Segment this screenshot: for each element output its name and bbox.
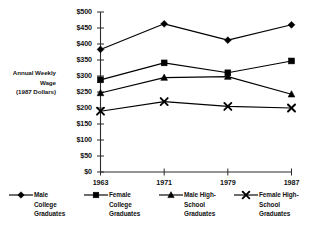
series-square — [98, 58, 295, 83]
marker-square — [93, 192, 99, 198]
marker-diamond — [288, 21, 295, 28]
series-triangle — [97, 73, 295, 97]
legend-marker-triangle — [158, 190, 184, 200]
marker-diamond — [18, 192, 24, 198]
series-line — [101, 77, 292, 95]
legend-marker-diamond — [8, 190, 34, 200]
legend-item[interactable]: Male College Graduates — [8, 190, 83, 219]
legend-item[interactable]: Female College Graduates — [83, 190, 158, 219]
marker-diamond — [224, 37, 231, 44]
series-line — [101, 102, 292, 112]
wage-line-chart: Annual Weekly Wage (1987 Dollars) $0$50$… — [0, 0, 313, 231]
series-line — [101, 24, 292, 50]
marker-diamond — [97, 46, 104, 53]
marker-square — [98, 77, 104, 83]
marker-diamond — [161, 20, 168, 27]
legend-marker-cross — [233, 190, 259, 200]
marker-square — [289, 58, 295, 64]
marker-square — [161, 60, 167, 66]
series-cross — [97, 98, 295, 115]
legend-item[interactable]: Male High- School Graduates — [158, 190, 233, 219]
legend-item[interactable]: Female High- School Graduates — [233, 190, 308, 219]
chart-legend: Male College GraduatesFemale College Gra… — [8, 190, 308, 230]
legend-label: Female College Graduates — [109, 190, 140, 219]
legend-marker-square — [83, 190, 109, 200]
legend-label: Male High- School Graduates — [184, 190, 216, 219]
legend-label: Male College Graduates — [34, 190, 65, 219]
legend-label: Female High- School Graduates — [259, 190, 299, 219]
series-diamond — [97, 20, 295, 52]
